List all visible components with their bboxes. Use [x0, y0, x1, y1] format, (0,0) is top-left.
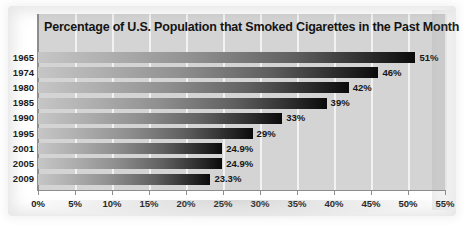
bar — [38, 158, 222, 169]
x-axis-tick-label: 0% — [31, 198, 45, 209]
y-axis-tick-label: 2001 — [4, 143, 34, 154]
x-axis-tick-label: 55% — [435, 198, 454, 209]
gridline — [445, 14, 447, 190]
bar — [38, 128, 253, 139]
x-axis-tick — [297, 190, 298, 195]
x-axis-tick-label: 20% — [176, 198, 195, 209]
x-axis-tick-label: 25% — [213, 198, 232, 209]
x-axis-tick-label: 35% — [287, 198, 306, 209]
bar — [38, 143, 222, 154]
bar — [38, 174, 210, 185]
bar-value-label: 46% — [382, 67, 401, 78]
x-axis-tick — [149, 190, 150, 195]
bar — [38, 98, 327, 109]
bar — [38, 67, 378, 78]
bar-value-label: 29% — [257, 128, 276, 139]
bar — [38, 52, 415, 63]
x-axis-tick-label: 10% — [102, 198, 121, 209]
y-axis-tick-label: 1985 — [4, 97, 34, 108]
y-axis-tick-label: 1974 — [4, 67, 34, 78]
bar-value-label: 24.9% — [226, 158, 253, 169]
bar-value-label: 23.3% — [214, 173, 241, 184]
y-axis-tick-label: 1980 — [4, 82, 34, 93]
gridline — [408, 14, 410, 190]
x-axis-tick — [445, 190, 446, 195]
x-axis-tick-label: 40% — [324, 198, 343, 209]
x-axis-tick-label: 15% — [139, 198, 158, 209]
x-axis-tick — [371, 190, 372, 195]
y-axis-tick-label: 1990 — [4, 112, 34, 123]
x-axis-tick-label: 30% — [250, 198, 269, 209]
bar — [38, 82, 349, 93]
x-axis-tick-label: 50% — [398, 198, 417, 209]
bar-value-label: 51% — [419, 52, 438, 63]
chart-title: Percentage of U.S. Population that Smoke… — [44, 20, 442, 34]
x-axis-tick-label: 5% — [68, 198, 82, 209]
x-axis-tick — [260, 190, 261, 195]
x-axis-line — [38, 190, 446, 191]
x-axis-tick — [408, 190, 409, 195]
x-axis-tick — [75, 190, 76, 195]
bar-value-label: 39% — [331, 97, 350, 108]
bar — [38, 113, 282, 124]
y-axis-tick-label: 1965 — [4, 52, 34, 63]
y-axis-tick-label: 1995 — [4, 128, 34, 139]
x-axis-tick — [38, 190, 39, 195]
y-axis-tick-label: 2005 — [4, 158, 34, 169]
bar-value-label: 33% — [286, 112, 305, 123]
gridline — [371, 14, 373, 190]
x-axis-tick — [223, 190, 224, 195]
y-axis-tick-label: 2009 — [4, 173, 34, 184]
bar-value-label: 42% — [353, 82, 372, 93]
x-axis-tick — [186, 190, 187, 195]
bar-chart: Percentage of U.S. Population that Smoke… — [0, 0, 464, 225]
x-axis-tick — [334, 190, 335, 195]
x-axis-tick — [112, 190, 113, 195]
x-axis-tick-label: 45% — [361, 198, 380, 209]
bar-value-label: 24.9% — [226, 143, 253, 154]
